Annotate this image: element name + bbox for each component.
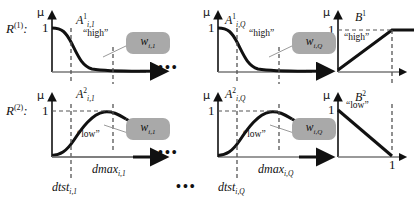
dmax-base-iQ: dmax <box>258 162 284 176</box>
weight-label-i1-top: wi,1 <box>141 35 156 50</box>
set-label-A1-iQ-sub: i,Q <box>236 20 245 29</box>
mu-label-2: μ <box>37 90 44 101</box>
row-label-R1: R(1): <box>6 22 28 35</box>
dmax-base-i1: dmax <box>92 162 118 176</box>
ellipsis-row2: ••• <box>158 146 179 160</box>
dtst-sub-iQ: i,Q <box>235 187 244 196</box>
weight-sub-i1-bot: i,1 <box>148 129 155 137</box>
weight-label-iQ-top: wi,Q <box>306 35 322 50</box>
set-label-B1-sup: 1 <box>362 9 366 18</box>
dtst-base-iQ: dtst <box>218 180 235 194</box>
mu-label-5: μ <box>323 7 330 18</box>
weight-sub-iQ-bot: i,Q <box>313 129 322 137</box>
set-label-A1-iQ: A1i,Q <box>225 13 245 29</box>
y-tick-one-3: 1 <box>208 21 215 34</box>
mu-label-6: μ <box>323 90 330 101</box>
row-label-R1-superscript: (1) <box>14 21 23 30</box>
row-label-R1-colon: : <box>23 21 27 36</box>
weight-box-i1-top[interactable]: wi,1 <box>126 32 170 54</box>
row-label-R2-superscript: (2) <box>14 103 23 112</box>
set-label-B2-sup: 2 <box>362 89 366 98</box>
quality-label-low-Q: “low” <box>243 130 266 140</box>
quality-label-high-Q: “high” <box>249 29 274 39</box>
y-tick-one-4: 1 <box>208 104 215 117</box>
connector-w-i1-top <box>103 45 128 57</box>
axis-label-dtst-iQ: dtsti,Q <box>218 181 245 196</box>
connector-w-i1-bot <box>104 125 128 133</box>
fuzzy-membership-figure: μ μ μ μ μ μ R(1): R(2): 1 1 1 1 1 1 1 A1… <box>0 0 417 198</box>
weight-sub-i1-top: i,1 <box>148 43 155 51</box>
panel-B1-high <box>338 18 414 84</box>
axis-label-dtst-i1: dtsti,1 <box>52 181 77 196</box>
y-tick-one-6: 1 <box>328 103 335 116</box>
connector-w-iQ-top <box>269 45 294 57</box>
mu-label-1: μ <box>37 7 44 18</box>
ellipsis-dtst: ••• <box>176 180 197 194</box>
quality-label-B2: “low” <box>346 101 369 111</box>
axis-label-dmax-iQ: dmaxi,Q <box>258 163 293 178</box>
set-label-A2-iQ: A2i,Q <box>225 87 245 103</box>
weight-box-iQ-top[interactable]: wi,Q <box>292 32 336 54</box>
ellipsis-row1: ••• <box>158 61 179 75</box>
y-tick-one-1: 1 <box>42 21 49 34</box>
set-label-B1: B1 <box>355 10 366 23</box>
weight-label-iQ-bot: wi,Q <box>306 121 322 136</box>
mu-label-3: μ <box>203 7 210 18</box>
y-tick-one-2: 1 <box>42 104 49 117</box>
set-label-A2-iQ-sub: i,Q <box>236 94 245 103</box>
dtst-sub-i1: i,1 <box>69 187 77 196</box>
quality-label-high-1: “high” <box>83 29 108 39</box>
axis-label-dmax-i1: dmaxi,1 <box>92 163 126 178</box>
set-label-A1-i1: A1i,1 <box>76 13 95 29</box>
set-label-A2-i1: A2i,1 <box>76 87 95 103</box>
curve-B2 <box>338 110 392 156</box>
dmax-sub-iQ: i,Q <box>284 169 293 178</box>
weight-label-i1-bot: wi,1 <box>141 121 156 136</box>
weight-sub-iQ-top: i,Q <box>313 43 322 51</box>
row-label-R2-colon: : <box>23 103 27 118</box>
quality-label-B1: “high” <box>344 33 369 43</box>
connector-w-iQ-bot <box>270 125 294 133</box>
x-tick-one-B2: 1 <box>389 158 396 171</box>
quality-label-low-1: “low” <box>77 130 100 140</box>
dmax-sub-i1: i,1 <box>118 169 126 178</box>
weight-box-iQ-bot[interactable]: wi,Q <box>292 118 336 140</box>
row-label-R2: R(2): <box>6 104 28 117</box>
dtst-base-i1: dtst <box>52 180 69 194</box>
set-label-A2-i1-sub: i,1 <box>87 94 95 103</box>
weight-box-i1-bot[interactable]: wi,1 <box>126 118 170 140</box>
mu-label-4: μ <box>203 90 210 101</box>
